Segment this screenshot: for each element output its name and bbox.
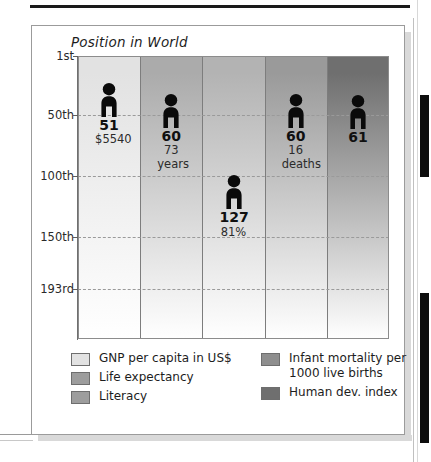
- legend-swatch: [261, 387, 280, 400]
- page-edge-line-inner: [413, 18, 414, 462]
- figure-rank-value: 127: [220, 210, 248, 225]
- page-horizontal-rule: [30, 5, 410, 8]
- legend-item[interactable]: Literacy: [71, 389, 256, 404]
- legend-item[interactable]: Life expectancy: [71, 370, 256, 385]
- page-edge-black-bar-top: [420, 95, 429, 177]
- legend-swatch: [71, 372, 90, 385]
- gridline: [78, 289, 389, 290]
- figure-detail-line-2: deaths: [282, 158, 310, 171]
- pictogram-figure: 6073years: [157, 94, 185, 171]
- legend-swatch: [261, 353, 280, 366]
- legend-label: GNP per capita in US$: [99, 351, 232, 366]
- legend-label: Human dev. index: [289, 385, 398, 400]
- figure-detail-line-1: 16: [282, 144, 310, 157]
- legend-label: Literacy: [99, 389, 147, 404]
- pictogram-figure: 6016deaths: [282, 94, 310, 171]
- page-left-rule: [0, 434, 33, 435]
- y-axis-tick-label: 1st: [30, 49, 74, 63]
- legend-item[interactable]: Human dev. index: [261, 385, 411, 400]
- figure-detail-line-2: years: [157, 158, 185, 171]
- legend-item[interactable]: Infant mortality per 1000 live births: [261, 351, 411, 381]
- person-icon: [344, 95, 372, 129]
- legend-swatch: [71, 391, 90, 404]
- figure-rank-value: 60: [157, 129, 185, 144]
- page-edge-black-bar-bottom: [420, 293, 429, 443]
- legend-swatch: [71, 353, 90, 366]
- y-axis-tick-label: 100th: [30, 169, 74, 183]
- person-icon: [220, 175, 248, 209]
- legend-label: Life expectancy: [99, 370, 194, 385]
- figure-detail-line-1: 81%: [220, 226, 248, 239]
- gridline: [78, 115, 389, 116]
- legend-item[interactable]: GNP per capita in US$: [71, 351, 256, 366]
- page-left-rule-second: [0, 440, 33, 441]
- figure-detail-line-1: 73: [157, 144, 185, 157]
- person-icon: [95, 83, 123, 117]
- card-shadow-bottom: [38, 435, 412, 441]
- page-edge-line-outer: [417, 0, 418, 462]
- pictogram-figure: 61: [344, 95, 372, 145]
- person-icon: [157, 94, 185, 128]
- y-axis-tick-label: 193rd: [30, 282, 74, 296]
- figure-rank-value: 61: [344, 130, 372, 145]
- chart-title: Position in World: [71, 34, 188, 50]
- legend-label: Infant mortality per 1000 live births: [289, 351, 411, 381]
- figure-rank-value: 60: [282, 129, 310, 144]
- y-axis-tick-label: 150th: [30, 230, 74, 244]
- legend-column-left: GNP per capita in US$Life expectancyLite…: [71, 351, 256, 408]
- person-icon: [282, 94, 310, 128]
- y-axis-tick-label: 50th: [30, 108, 74, 122]
- chart-card: Position in World 1st50th100th150th193rd…: [31, 25, 405, 435]
- figure-detail-line-1: $5540: [95, 133, 123, 146]
- pictogram-figure: 51$5540: [95, 83, 123, 147]
- figure-rank-value: 51: [95, 118, 123, 133]
- pictogram-figure: 12781%: [220, 175, 248, 239]
- legend-column-right: Infant mortality per 1000 live birthsHum…: [261, 351, 411, 404]
